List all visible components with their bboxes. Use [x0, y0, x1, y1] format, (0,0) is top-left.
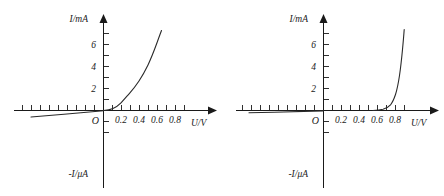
- origin-label: O: [312, 115, 319, 126]
- y-axis-arrowhead: [320, 14, 328, 23]
- x-axis-arrowhead: [430, 107, 439, 115]
- y-axis-label: I/mA: [289, 14, 309, 24]
- x-tick-labels-right: 0.2 0.4 0.6 0.8: [335, 115, 401, 125]
- x-tick-label: 0.8: [169, 115, 181, 125]
- x-axis-ticks-negative: [242, 105, 314, 110]
- y-tick-label: 4: [91, 62, 96, 72]
- x-axis-label: U/V: [411, 118, 428, 128]
- y-axis-label: I/mA: [69, 14, 89, 24]
- x-tick-label: 0.6: [151, 115, 163, 125]
- y-tick-label: 2: [311, 84, 316, 94]
- y-tick-labels-left: 2 4 6: [91, 40, 96, 94]
- x-axis-label: U/V: [191, 118, 208, 128]
- origin-label: O: [92, 115, 99, 126]
- x-tick-labels-left: 0.2 0.4 0.6 0.8: [115, 115, 181, 125]
- y-axis-ticks: [104, 34, 109, 133]
- y-tick-label: 2: [91, 84, 96, 94]
- y-axis-arrowhead: [100, 14, 108, 23]
- x-tick-label: 0.2: [335, 115, 347, 125]
- y-tick-label: 4: [311, 62, 316, 72]
- y-tick-labels-right: 2 4 6: [311, 40, 316, 94]
- y-axis-ticks: [324, 34, 329, 133]
- chart-panel-right: 0.2 0.4 0.6 0.8 2 4 6 O I/mA U/V -I/μA: [222, 0, 444, 196]
- chart-svg-left: 0.2 0.4 0.6 0.8 2 4 6 O I/mA U/V -I/μA: [0, 0, 222, 196]
- negative-y-axis-label: -I/μA: [288, 169, 308, 179]
- x-axis-ticks-positive: [112, 105, 184, 110]
- chart-panel-left: 0.2 0.4 0.6 0.8 2 4 6 O I/mA U/V -I/μA: [0, 0, 222, 196]
- y-tick-label: 6: [91, 40, 96, 50]
- x-tick-label: 0.6: [371, 115, 383, 125]
- diode-iv-figure: 0.2 0.4 0.6 0.8 2 4 6 O I/mA U/V -I/μA: [0, 0, 444, 196]
- x-axis-arrowhead: [208, 107, 217, 115]
- chart-svg-right: 0.2 0.4 0.6 0.8 2 4 6 O I/mA U/V -I/μA: [222, 0, 444, 196]
- x-axis-ticks-positive: [332, 105, 404, 110]
- negative-y-axis-label: -I/μA: [68, 169, 88, 179]
- forward-branch-curve: [104, 31, 162, 111]
- forward-branch-curve: [373, 30, 404, 111]
- x-tick-label: 0.8: [389, 115, 401, 125]
- reverse-branch-curve: [249, 111, 324, 113]
- y-tick-label: 6: [311, 40, 316, 50]
- axes-left: [14, 14, 217, 188]
- x-tick-label: 0.4: [353, 115, 365, 125]
- axes-right: [236, 14, 439, 188]
- x-tick-label: 0.4: [133, 115, 145, 125]
- x-axis-ticks-negative: [22, 105, 94, 110]
- x-tick-label: 0.2: [115, 115, 127, 125]
